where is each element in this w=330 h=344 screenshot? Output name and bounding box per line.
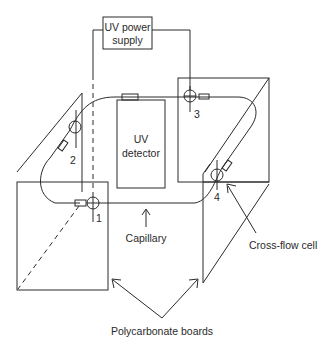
capillary-callout: Capillary <box>126 209 168 244</box>
boards-arrow-left-shaft <box>113 280 162 318</box>
polycarbonate-board-right-front <box>203 164 269 283</box>
electrode-3: 3 <box>184 86 200 120</box>
detector-label-line1: UV <box>134 133 149 145</box>
connector-4 <box>222 160 232 171</box>
cross-flow-cell-label: Cross-flow cell <box>249 239 317 251</box>
connector-2 <box>58 140 68 151</box>
detector-label-line2: detector <box>122 147 160 159</box>
marker-1: 1 <box>96 212 102 224</box>
polycarbonate-board-left-front <box>17 182 108 290</box>
board-edge-diagonal <box>205 78 269 172</box>
cross-flow-cell-callout: Cross-flow cell <box>227 184 317 251</box>
boards-arrow-right-shaft <box>162 280 197 318</box>
capillary-label: Capillary <box>126 232 168 244</box>
power-supply-label-line2: supply <box>112 34 143 46</box>
polycarbonate-boards-callout: Polycarbonate boards <box>111 279 213 337</box>
marker-2: 2 <box>70 154 76 166</box>
uv-power-supply: UV power supply <box>103 17 152 49</box>
marker-3: 3 <box>194 108 200 120</box>
polycarbonate-board-left-side <box>17 93 82 192</box>
polycarbonate-boards-label: Polycarbonate boards <box>111 325 213 337</box>
uv-detector: UV detector <box>117 100 165 188</box>
power-lead-right <box>152 30 190 90</box>
power-supply-label-line1: UV power <box>104 21 151 33</box>
electrode-2: 2 <box>69 110 81 166</box>
board-rect <box>17 182 108 290</box>
board-dashed-diagonal <box>18 206 79 289</box>
marker-4: 4 <box>214 191 220 203</box>
electrode-1: 1 <box>87 196 102 224</box>
power-lead-left-solid <box>93 30 103 75</box>
diagram-canvas: UV power supply UV detector <box>0 0 330 344</box>
